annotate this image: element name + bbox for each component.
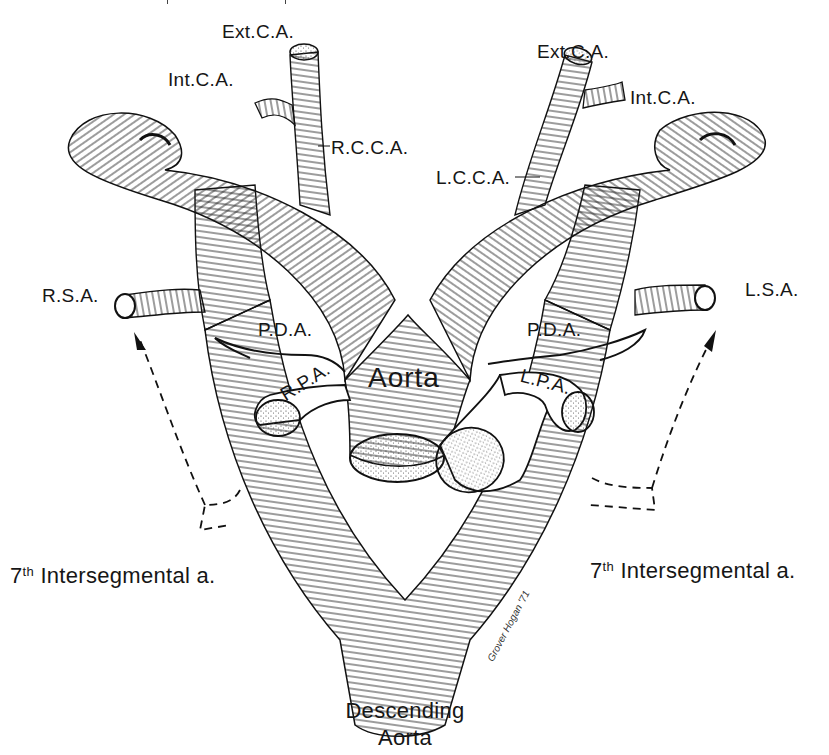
label-lcca: L.C.C.A.: [436, 168, 510, 187]
label-ext-ca-left: Ext.C.A.: [537, 42, 609, 61]
ordinal-suffix: th: [603, 559, 614, 574]
scan-mark: [167, 0, 168, 4]
label-7th-intersegmental-right: 7th Intersegmental a.: [10, 565, 216, 587]
ordinal-number: 7: [590, 558, 603, 583]
label-pda-left: P.D.A.: [527, 320, 581, 339]
label-descending-line2: Aorta: [340, 727, 470, 749]
aortic-arch-diagram: Ext.C.A. Int.C.A. R.C.C.A. Ext.C.A. Int.…: [0, 0, 829, 755]
right-subclavian: [115, 289, 205, 318]
label-lsa: L.S.A.: [745, 280, 799, 299]
left-subclavian: [635, 285, 715, 315]
right-common-carotid: [255, 44, 330, 215]
label-rcca: R.C.C.A.: [331, 138, 408, 157]
scan-mark: [285, 0, 286, 4]
label-ext-ca-right: Ext.C.A.: [222, 22, 294, 41]
label-int-ca-right: Int.C.A.: [168, 70, 234, 89]
ordinal-suffix: th: [23, 564, 34, 579]
label-pda-right: P.D.A.: [258, 320, 312, 339]
intersegmental-text: Intersegmental a.: [40, 563, 215, 588]
label-descending-line1: Descending: [340, 700, 470, 722]
ordinal-number: 7: [10, 563, 23, 588]
label-int-ca-left: Int.C.A.: [630, 88, 696, 107]
label-7th-intersegmental-left: 7th Intersegmental a.: [590, 560, 796, 582]
label-rsa: R.S.A.: [42, 286, 99, 305]
label-aorta: Aorta: [368, 364, 440, 392]
intersegmental-text: Intersegmental a.: [620, 558, 795, 583]
